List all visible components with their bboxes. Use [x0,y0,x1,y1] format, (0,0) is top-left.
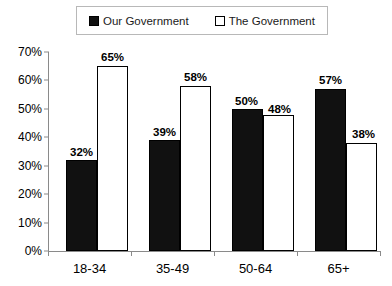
x-tick-mark-3 [297,251,298,256]
x-tick-mark-2 [214,251,215,256]
x-tick-mark-1 [131,251,132,256]
bar-our-government-50-64[interactable] [232,109,263,251]
bar-chart: Our Government The Government 70% 60% 50… [0,0,392,286]
bar-value-the-government-50-64: 48% [268,103,291,115]
y-tick-label-30: 30% [18,160,42,172]
hollow-square-icon [215,16,225,26]
bar-group-65-plus: 57% 38% [297,52,380,251]
x-axis-label-50-64: 50-64 [239,262,272,276]
legend-entry-our-government: Our Government [89,15,189,27]
bar-value-the-government-18-34: 65% [101,51,124,63]
bar-our-government-18-34[interactable] [66,160,97,251]
plot-area: 70% 60% 50% 40% 30% 20% 10% 0% 32% 65% 3… [48,52,380,251]
y-tick-label-70: 70% [18,46,42,58]
x-tick-mark-4 [380,251,381,256]
bar-the-government-50-64[interactable] [263,115,294,252]
bar-value-our-government-35-49: 39% [153,126,176,138]
legend-label-the-government: The Government [229,15,315,27]
legend-label-our-government: Our Government [103,15,189,27]
legend-entry-the-government: The Government [215,15,315,27]
bar-the-government-65-plus[interactable] [346,143,377,251]
y-tick-label-60: 60% [18,74,42,86]
bar-group-18-34: 32% 65% [48,52,131,251]
x-axis-label-65-plus: 65+ [327,262,349,276]
bar-value-the-government-65-plus: 38% [352,128,375,140]
y-tick-label-0: 0% [25,245,42,257]
bar-our-government-65-plus[interactable] [315,89,346,251]
bar-value-our-government-18-34: 32% [70,146,93,158]
bar-the-government-18-34[interactable] [97,66,128,251]
bar-the-government-35-49[interactable] [180,86,211,251]
y-tick-label-20: 20% [18,188,42,200]
x-axis-label-35-49: 35-49 [156,262,189,276]
x-tick-mark-0 [48,251,49,256]
filled-square-icon [89,16,99,26]
bar-group-50-64: 50% 48% [214,52,297,251]
bar-our-government-35-49[interactable] [149,140,180,251]
bar-value-our-government-50-64: 50% [235,95,258,107]
x-axis-label-18-34: 18-34 [73,262,106,276]
y-tick-label-50: 50% [18,103,42,115]
y-tick-label-40: 40% [18,131,42,143]
y-tick-label-10: 10% [18,217,42,229]
bar-value-our-government-65-plus: 57% [319,74,342,86]
chart-legend: Our Government The Government [76,6,328,35]
bar-value-the-government-35-49: 58% [184,71,207,83]
bar-group-35-49: 39% 58% [131,52,214,251]
